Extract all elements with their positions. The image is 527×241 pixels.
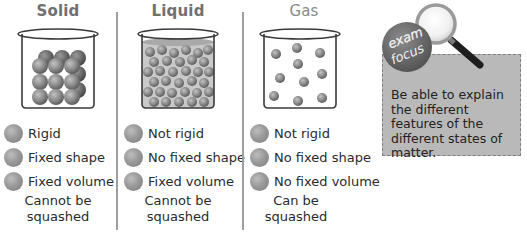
property-label: No fixed shape xyxy=(148,150,245,165)
liquid-property: No fixed shape xyxy=(124,145,245,169)
solid-property: Rigid xyxy=(4,121,114,145)
gas-properties: Not rigid No fixed shape No fixed volume xyxy=(250,121,380,193)
particle-bullet-icon xyxy=(124,172,143,191)
particle-bullet-icon xyxy=(250,172,269,191)
property-label: Fixed volume xyxy=(148,174,234,189)
liquid-beaker-icon xyxy=(132,26,224,110)
liquid-title: Liquid xyxy=(120,2,236,20)
compressibility-line: Cannot be xyxy=(0,193,116,209)
solid-beaker-icon xyxy=(14,26,102,110)
solid-property: Fixed volume xyxy=(4,169,114,193)
column-gas: Gas Not rigid No fixed shape No fixed vo… xyxy=(246,0,362,241)
column-solid: Solid xyxy=(0,0,116,241)
exam-focus-text: Be able to explain the different feature… xyxy=(391,88,519,161)
property-label: Rigid xyxy=(28,126,61,141)
liquid-compressibility: Cannot be squashed xyxy=(120,193,236,225)
property-label: No fixed volume xyxy=(274,174,380,189)
property-label: Fixed shape xyxy=(28,150,105,165)
gas-beaker-icon xyxy=(256,26,344,110)
solid-title: Solid xyxy=(0,2,116,20)
gas-compressibility: Can be squashed xyxy=(238,193,354,225)
particle-bullet-icon xyxy=(124,148,143,167)
liquid-properties: Not rigid No fixed shape Fixed volume xyxy=(124,121,245,193)
particle-bullet-icon xyxy=(4,172,23,191)
compressibility-line: squashed xyxy=(238,209,354,225)
solid-property: Fixed shape xyxy=(4,145,114,169)
liquid-property: Not rigid xyxy=(124,121,245,145)
property-label: No fixed shape xyxy=(274,150,371,165)
exam-focus-badge: exam focus xyxy=(382,22,432,72)
solid-compressibility: Cannot be squashed xyxy=(0,193,116,225)
compressibility-line: Can be xyxy=(238,193,354,209)
compressibility-line: Cannot be xyxy=(120,193,236,209)
gas-title: Gas xyxy=(246,2,362,20)
particle-bullet-icon xyxy=(4,148,23,167)
gas-property: Not rigid xyxy=(250,121,380,145)
compressibility-line: squashed xyxy=(0,209,116,225)
particle-bullet-icon xyxy=(250,124,269,143)
particle-bullet-icon xyxy=(250,148,269,167)
compressibility-line: squashed xyxy=(120,209,236,225)
gas-property: No fixed shape xyxy=(250,145,380,169)
particle-bullet-icon xyxy=(124,124,143,143)
particle-bullet-icon xyxy=(4,124,23,143)
gas-property: No fixed volume xyxy=(250,169,380,193)
liquid-property: Fixed volume xyxy=(124,169,245,193)
magnifying-glass-icon: exam focus xyxy=(378,2,488,92)
property-label: Not rigid xyxy=(274,126,330,141)
solid-properties: Rigid Fixed shape Fixed volume xyxy=(4,121,114,193)
column-divider xyxy=(116,12,118,230)
column-liquid: Liquid Not rigid No fixed shape Fixed vo… xyxy=(120,0,236,241)
property-label: Fixed volume xyxy=(28,174,114,189)
property-label: Not rigid xyxy=(148,126,204,141)
